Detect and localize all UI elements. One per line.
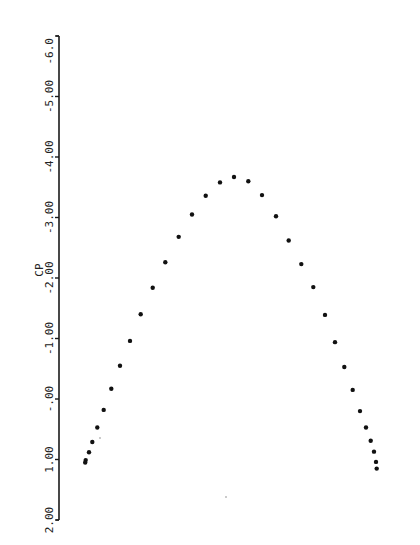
data-point bbox=[95, 425, 99, 429]
data-point bbox=[190, 212, 194, 216]
axis-tick-label: -.00 bbox=[43, 386, 56, 413]
scan-speck bbox=[225, 496, 227, 498]
data-point bbox=[287, 238, 291, 242]
axis-tick-label: -3.00 bbox=[43, 201, 56, 234]
data-point bbox=[351, 388, 355, 392]
axis-tick-label: 2.00 bbox=[43, 507, 56, 534]
data-point bbox=[109, 387, 113, 391]
data-point bbox=[374, 460, 378, 464]
data-point bbox=[128, 339, 132, 343]
cp-axis: -6.0-5.00-4.00-3.00-2.00-1.00-.001.002.0… bbox=[43, 36, 59, 533]
data-point bbox=[364, 425, 368, 429]
data-point bbox=[246, 179, 250, 183]
data-point bbox=[90, 440, 94, 444]
cp-axis-title: CP bbox=[33, 263, 46, 277]
data-points bbox=[83, 175, 379, 471]
data-point bbox=[83, 460, 87, 464]
data-point bbox=[204, 194, 208, 198]
data-point bbox=[375, 466, 379, 470]
data-point bbox=[163, 260, 167, 264]
data-point bbox=[369, 439, 373, 443]
data-point bbox=[299, 262, 303, 266]
data-point bbox=[311, 285, 315, 289]
data-point bbox=[274, 214, 278, 218]
data-point bbox=[358, 409, 362, 413]
axis-tick-label: -1.00 bbox=[43, 322, 56, 355]
data-point bbox=[87, 450, 91, 454]
axis-tick-label: -5.00 bbox=[43, 80, 56, 113]
data-point bbox=[232, 175, 236, 179]
axis-tick-label: -4.00 bbox=[43, 140, 56, 173]
axis-tick-label: 1.00 bbox=[43, 446, 56, 473]
data-point bbox=[333, 340, 337, 344]
data-point bbox=[260, 193, 264, 197]
axis-tick-label: -6.0 bbox=[43, 38, 56, 65]
data-point bbox=[102, 408, 106, 412]
data-point bbox=[372, 449, 376, 453]
data-point bbox=[139, 312, 143, 316]
data-point bbox=[323, 313, 327, 317]
data-point bbox=[151, 285, 155, 289]
cp-scatter-chart: -6.0-5.00-4.00-3.00-2.00-1.00-.001.002.0… bbox=[0, 0, 420, 545]
data-point bbox=[218, 180, 222, 184]
scan-speck bbox=[99, 437, 101, 439]
data-point bbox=[177, 235, 181, 239]
data-point bbox=[118, 364, 122, 368]
data-point bbox=[342, 365, 346, 369]
